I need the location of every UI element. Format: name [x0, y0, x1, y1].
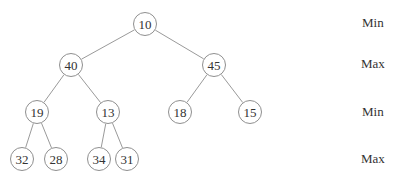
tree-edge	[26, 123, 34, 147]
tree-node-leaf: 32	[10, 147, 34, 171]
tree-node: 13	[96, 100, 120, 124]
min-max-heap-diagram: 10 40 45 19 13 18 15 32 28 34 31 Min Max…	[0, 0, 396, 176]
tree-edge	[41, 123, 51, 148]
tree-edge	[112, 123, 122, 148]
tree-node-leaf: 28	[44, 147, 68, 171]
tree-node: 19	[25, 100, 49, 124]
tree-edge	[221, 75, 242, 103]
tree-edge	[101, 124, 105, 147]
level-label-max: Max	[361, 56, 385, 72]
tree-node: 45	[202, 53, 226, 77]
tree-node-leaf: 34	[87, 147, 111, 171]
level-label-min: Min	[362, 15, 384, 31]
tree-edge	[78, 74, 100, 102]
tree-node-root: 10	[133, 12, 157, 36]
tree-edge	[44, 75, 64, 103]
tree-edge	[81, 30, 134, 59]
tree-node: 40	[59, 53, 83, 77]
level-label-max: Max	[361, 151, 385, 167]
tree-edge	[155, 30, 203, 59]
level-label-min: Min	[362, 104, 384, 120]
tree-node: 18	[168, 100, 192, 124]
tree-node: 15	[238, 100, 262, 124]
tree-edge	[187, 75, 207, 103]
tree-node-leaf: 31	[115, 147, 139, 171]
